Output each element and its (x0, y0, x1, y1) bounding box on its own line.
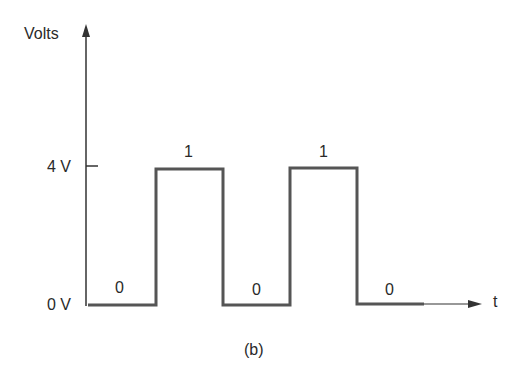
bit-label-4: 1 (319, 144, 328, 160)
y-axis-label: Volts (24, 26, 59, 42)
level-label-0v: 0 V (47, 297, 71, 313)
pulse-waveform-diagram (0, 0, 523, 378)
bit-label-3: 0 (252, 282, 261, 298)
bit-label-2: 1 (184, 144, 193, 160)
bit-label-5: 0 (385, 282, 394, 298)
x-axis-arrow-icon (468, 300, 482, 308)
bit-label-1: 0 (115, 280, 124, 296)
x-axis-label: t (493, 294, 497, 310)
y-axis-arrow-icon (82, 24, 90, 37)
level-label-4v: 4 V (47, 159, 71, 175)
figure-caption: (b) (244, 342, 264, 358)
